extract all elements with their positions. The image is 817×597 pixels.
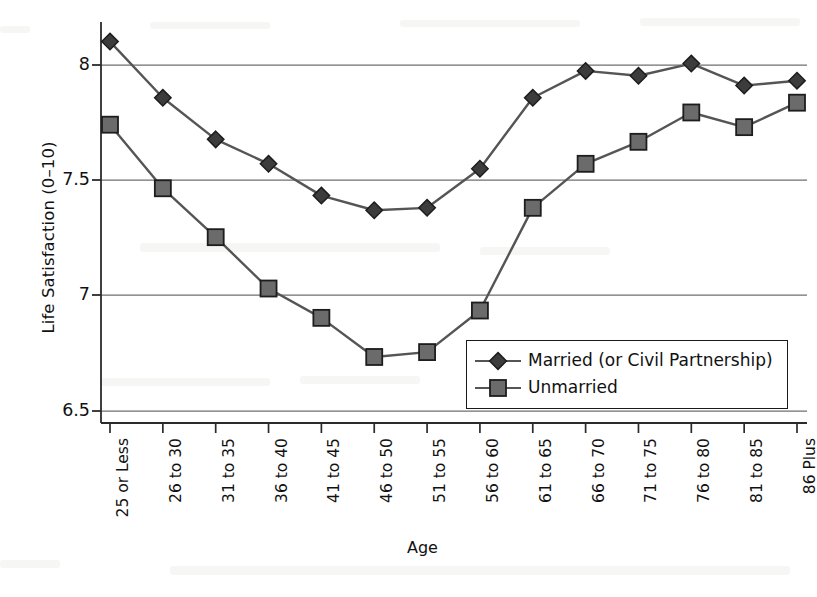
legend-label-unmarried: Unmarried — [528, 379, 618, 396]
data-point — [366, 202, 382, 218]
data-point — [472, 303, 488, 319]
legend-item-unmarried: Unmarried — [475, 374, 773, 401]
y-tick-label: 7.5 — [34, 171, 90, 189]
scan-artifact — [0, 26, 30, 33]
data-series-layer — [102, 33, 805, 365]
diamond-marker-icon — [475, 350, 521, 372]
legend-label-married: Married (or Civil Partnership) — [528, 352, 773, 369]
y-tick-marks — [92, 65, 101, 411]
y-tick-label: 7 — [34, 286, 90, 304]
data-point — [313, 310, 329, 326]
legend-item-married: Married (or Civil Partnership) — [475, 347, 773, 374]
data-point — [525, 200, 541, 216]
data-point — [683, 104, 699, 120]
data-point — [419, 344, 435, 360]
data-point — [578, 156, 594, 172]
x-axis-title: Age — [0, 538, 817, 557]
x-axis-title-text: Age — [407, 538, 438, 557]
data-point — [102, 117, 118, 133]
chart-legend: Married (or Civil Partnership) Unmarried — [466, 340, 788, 409]
data-point — [366, 349, 382, 365]
data-point — [208, 229, 224, 245]
data-point — [260, 156, 276, 172]
series-married — [102, 33, 805, 218]
y-axis-tick-labels: 8 7.5 7 6.5 — [34, 0, 90, 597]
y-tick-label: 6.5 — [34, 402, 90, 420]
data-point — [789, 72, 805, 88]
data-point — [736, 119, 752, 135]
data-point — [683, 55, 699, 71]
data-point — [630, 68, 646, 84]
y-tick-label: 8 — [34, 56, 90, 74]
data-point — [789, 95, 805, 111]
data-point — [313, 187, 329, 203]
data-point — [261, 281, 277, 297]
chart-figure: Life Satisfaction (0–10) 8 7.5 7 6.5 — [0, 0, 817, 597]
square-marker-icon — [475, 377, 521, 399]
data-point — [630, 134, 646, 150]
x-axis-tick-labels: 25 or Less26 to 3031 to 3536 to 4041 to … — [101, 424, 807, 544]
series-unmarried — [102, 95, 805, 365]
data-point — [155, 180, 171, 196]
data-point — [736, 77, 752, 93]
